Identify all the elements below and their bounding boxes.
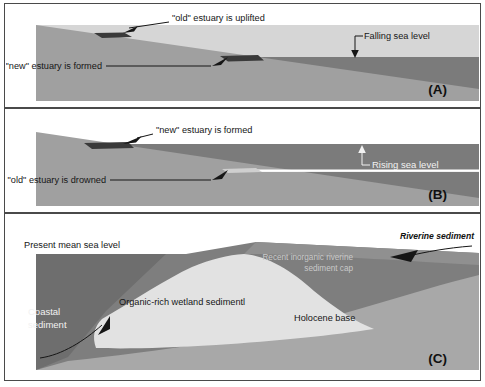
panel-b-new-estuary-label: "new" estuary is formed [156, 125, 252, 135]
panel-c-holocene-base-label: Holocene base [294, 313, 355, 323]
panel-c-riverine-sediment-label: Riverine sediment [400, 231, 475, 241]
panel-b-tag: (B) [428, 187, 447, 202]
panel-a-sea-level-label: Falling sea level [364, 31, 430, 41]
panel-divider-ab [5, 107, 480, 109]
panel-c-wetland-sediment-label: Organic-rich wetland sedimentl [119, 297, 245, 307]
panel-a-old-estuary-label: "old" estuary is uplifted [172, 13, 265, 23]
panel-divider-bc [5, 212, 480, 214]
panel-b-old-estuary-label: "old" estuary is drowned [8, 175, 106, 185]
panel-b-old-sea-level-line [234, 170, 479, 172]
figure-container: "old" estuary is uplifted "new" estuary … [0, 0, 485, 387]
panel-b: "new" estuary is formed "old" estuary is… [6, 110, 479, 212]
panel-c-riverine-cap-label-line2: sediment cap [304, 264, 353, 273]
panel-c-tag: (C) [428, 351, 447, 366]
panel-c-present-sea-level-label: Present mean sea level [24, 240, 120, 250]
panel-c: Present mean sea level Coastal sediment … [6, 215, 479, 380]
panel-a-tag: (A) [428, 82, 447, 97]
panel-c-coastal-sediment-label-line2: sediment [28, 319, 67, 330]
panel-b-sea-level-label: Rising sea level [372, 159, 439, 170]
panel-c-coastal-sediment-label-line1: Coastal [28, 306, 60, 317]
panel-a: "old" estuary is uplifted "new" estuary … [6, 5, 479, 107]
panel-a-new-estuary-label: "new" estuary is formed [6, 61, 102, 71]
panel-c-riverine-cap-label-line1: Recent inorganic riverine [262, 253, 353, 262]
